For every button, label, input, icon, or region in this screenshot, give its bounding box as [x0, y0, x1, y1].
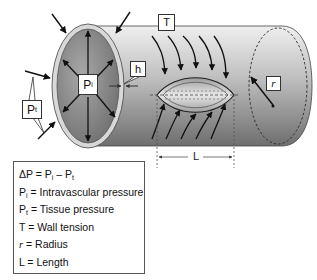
legend-text: = Tissue pressure	[28, 203, 114, 215]
length-label: L	[190, 150, 202, 162]
pi-sub: i	[91, 81, 93, 88]
legend-row-intravascular-pressure: Pi = Intravascular pressure	[19, 184, 144, 202]
legend-row-wall-tension: T = Wall tension	[19, 219, 144, 237]
legend-row-length: L = Length	[19, 254, 144, 272]
legend-symbol: P	[19, 203, 26, 215]
legend-text: = Wall tension	[25, 221, 94, 233]
pt-main: P	[27, 104, 35, 116]
legend-text: – P	[53, 168, 72, 180]
legend-row-radius: r = Radius	[19, 236, 144, 254]
wall-tension-label-text: T	[163, 17, 170, 28]
radius-label: r	[266, 76, 281, 91]
radius-label-text: r	[271, 78, 275, 89]
intravascular-pressure-label: Pi	[78, 74, 98, 95]
legend-text: = Intravascular pressure	[28, 186, 144, 198]
legend-symbol: P	[19, 186, 26, 198]
legend-row-tissue-pressure: Pt = Tissue pressure	[19, 201, 144, 219]
legend-text: ΔP = P	[19, 168, 52, 180]
pi-main: P	[83, 79, 91, 91]
wall-thickness-label: h	[130, 61, 146, 77]
wall-tension-label: T	[158, 14, 175, 31]
legend-row-delta-p: ΔP = Pi – Pt	[19, 166, 144, 184]
legend-text: = Radius	[23, 238, 68, 250]
pt-sub: t	[35, 106, 37, 113]
legend-sub: t	[72, 174, 74, 181]
legend-box: ΔP = Pi – Pt Pi = Intravascular pressure…	[13, 161, 145, 274]
tissue-pressure-label: Pt	[22, 100, 42, 119]
legend-text: = Length	[24, 256, 68, 268]
length-label-text: L	[193, 150, 199, 162]
wall-thickness-label-text: h	[135, 64, 141, 75]
